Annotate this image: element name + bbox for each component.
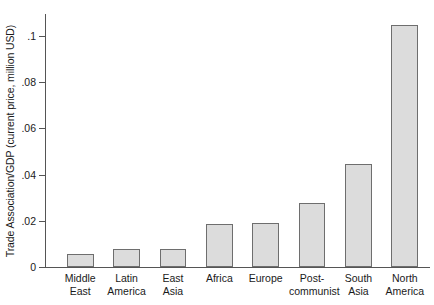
bar-3 [206, 224, 233, 267]
category-label-6: South Asia [335, 272, 381, 297]
bar-5 [299, 203, 326, 267]
y-tick-label-0: 0 [30, 260, 36, 274]
category-label-0: Middle East [57, 272, 103, 297]
y-tick-label-2: .04 [21, 168, 36, 182]
bar-4 [252, 223, 279, 267]
bar-1 [113, 249, 140, 268]
y-tick-3: .06 [39, 128, 45, 129]
bar-2 [160, 249, 187, 268]
plot-area: 0.02.04.06.08.1 Middle EastLatin America… [45, 8, 430, 268]
y-tick-label-4: .08 [21, 75, 36, 89]
bar-6 [345, 164, 372, 267]
y-tick-4: .08 [39, 82, 45, 83]
y-tick-0: 0 [39, 267, 45, 268]
category-label-1: Latin America [103, 272, 149, 297]
y-axis-line [45, 14, 46, 267]
category-label-5: Post- communist [289, 272, 335, 297]
bar-7 [391, 25, 418, 267]
bar-0 [67, 254, 94, 267]
y-tick-2: .04 [39, 175, 45, 176]
category-label-2: East Asia [150, 272, 196, 297]
category-label-4: Europe [243, 272, 289, 285]
category-label-7: North America [382, 272, 428, 297]
category-label-3: Africa [196, 272, 242, 285]
x-axis-line [45, 267, 430, 268]
y-tick-label-3: .06 [21, 121, 36, 135]
y-tick-label-1: .02 [21, 214, 36, 228]
y-tick-label-5: .1 [27, 29, 36, 43]
y-tick-1: .02 [39, 221, 45, 222]
bar-chart: Trade Association/GDP (current price, mi… [0, 0, 434, 305]
y-tick-5: .1 [39, 36, 45, 37]
y-axis-title: Trade Association/GDP (current price, mi… [2, 7, 18, 275]
